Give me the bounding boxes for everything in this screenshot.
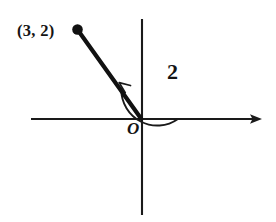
origin-label: O [127, 120, 139, 137]
angle-diagram-figure: (3, 2) 2 O [0, 0, 276, 222]
point-coordinate-label: (3, 2) [17, 23, 55, 40]
angle-measure-label: 2 [167, 61, 178, 83]
point-marker-dot [72, 24, 83, 35]
terminal-ray [79, 31, 142, 119]
